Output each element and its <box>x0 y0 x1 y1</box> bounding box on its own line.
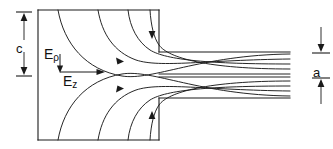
field-label-e-rho: Eρ <box>44 47 59 63</box>
field-line-diagram <box>0 0 333 149</box>
arrow-upper-mid-icon <box>116 57 124 64</box>
dim-c-arrowhead-up-icon <box>21 13 28 21</box>
dimension-label-c: c <box>16 42 23 55</box>
figure-container: c a Eρ Ez <box>0 0 333 149</box>
dimension-label-a: a <box>313 66 320 79</box>
arrow-lower-mid-icon <box>116 86 124 93</box>
dim-a-arrowhead-up-icon <box>318 79 325 87</box>
electric-field-lines <box>58 10 290 140</box>
e-z-symbol: E <box>63 73 72 89</box>
e-rho-symbol: E <box>44 46 53 62</box>
e-rho-subscript: ρ <box>53 52 59 63</box>
dim-c-arrowhead-down-icon <box>21 67 28 75</box>
dim-a-arrowhead-down-icon <box>318 44 325 52</box>
e-z-subscript: z <box>72 79 77 90</box>
field-line-upper-1 <box>58 10 290 77</box>
field-line-lower-1 <box>58 73 290 140</box>
field-label-e-z: Ez <box>63 74 77 90</box>
